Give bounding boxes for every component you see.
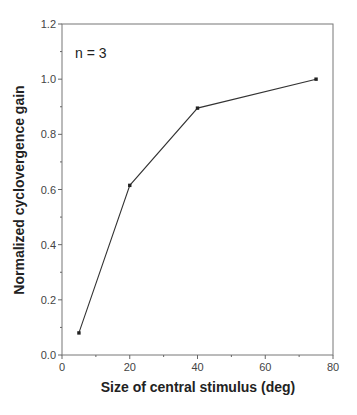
x-tick-label: 20 — [124, 361, 136, 373]
x-tick-label: 0 — [59, 361, 65, 373]
y-tick-label: 0.8 — [41, 128, 56, 140]
y-tick-label: 0.2 — [41, 294, 56, 306]
data-point-marker — [314, 77, 317, 80]
y-axis-label: Normalized cyclovergence gain — [11, 85, 27, 294]
x-tick-label: 60 — [259, 361, 271, 373]
data-point-marker — [77, 331, 80, 334]
x-tick-label: 40 — [191, 361, 203, 373]
y-tick-label: 0.4 — [41, 239, 56, 251]
series-line — [79, 79, 316, 333]
y-tick-label: 1.0 — [41, 73, 56, 85]
x-tick-label: 80 — [327, 361, 339, 373]
data-series — [77, 77, 318, 334]
sample-size-annotation: n = 3 — [75, 45, 107, 61]
y-tick-label: 0.6 — [41, 184, 56, 196]
data-point-marker — [128, 184, 131, 187]
y-tick-label: 1.2 — [41, 18, 56, 30]
plot-frame — [62, 24, 333, 355]
y-axis-ticks: 0.00.20.40.60.81.01.2 — [41, 18, 62, 361]
chart: 0.00.20.40.60.81.01.2 020406080 n = 3 No… — [0, 0, 357, 415]
x-axis-label: Size of central stimulus (deg) — [101, 379, 295, 395]
x-axis-ticks: 020406080 — [59, 355, 339, 373]
data-point-marker — [196, 106, 199, 109]
y-tick-label: 0.0 — [41, 349, 56, 361]
